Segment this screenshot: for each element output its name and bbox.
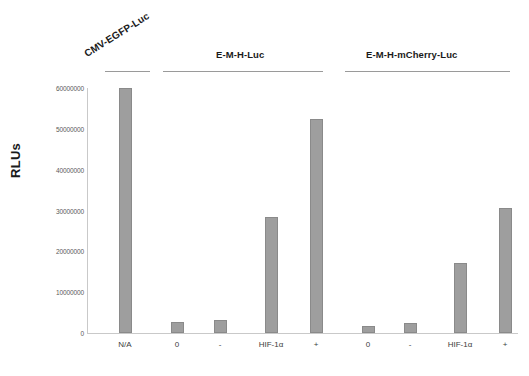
- plot-area: [88, 88, 518, 333]
- x-tick-label: 0: [175, 340, 179, 349]
- group-label-cmv-egfp-luc: CMV-EGFP-Luc: [82, 10, 151, 59]
- group-rule-3: [345, 71, 510, 72]
- y-tick-label: 40000000: [56, 166, 84, 173]
- x-tick-label: -: [409, 340, 412, 349]
- y-tick-label: 60000000: [56, 85, 84, 92]
- bar: [499, 208, 512, 333]
- x-tick-label: -: [219, 340, 222, 349]
- x-tick-label: N/A: [118, 340, 131, 349]
- x-tick-label: HIF-1α: [259, 340, 284, 349]
- y-tick-label: 50000000: [56, 125, 84, 132]
- y-tick-label: 10000000: [56, 289, 84, 296]
- x-tick-label: +: [503, 340, 508, 349]
- y-axis-title: RLUs: [8, 143, 23, 178]
- x-tick-label: +: [314, 340, 319, 349]
- y-axis-tick-labels: 6000000050000000400000003000000020000000…: [38, 0, 84, 376]
- bar: [171, 322, 184, 333]
- y-tick-label: 20000000: [56, 248, 84, 255]
- bar-chart-figure: CMV-EGFP-Luc E-M-H-Luc E-M-H-mCherry-Luc…: [0, 0, 529, 376]
- group-label-e-m-h-mcherry-luc: E-M-H-mCherry-Luc: [366, 49, 457, 60]
- x-tick-label: HIF-1α: [448, 340, 473, 349]
- group-rule-1: [105, 71, 150, 72]
- x-tick-label: 0: [366, 340, 370, 349]
- bar: [454, 263, 467, 333]
- bar: [214, 320, 227, 333]
- y-tick-label: 30000000: [56, 207, 84, 214]
- x-axis-line: [88, 333, 518, 334]
- bar: [404, 323, 417, 333]
- bar: [310, 119, 323, 333]
- bar: [265, 217, 278, 333]
- y-tick-label: 0: [80, 330, 84, 337]
- group-label-e-m-h-luc: E-M-H-Luc: [216, 49, 264, 60]
- group-rule-2: [163, 71, 323, 72]
- bar: [362, 326, 375, 333]
- bar: [119, 88, 132, 333]
